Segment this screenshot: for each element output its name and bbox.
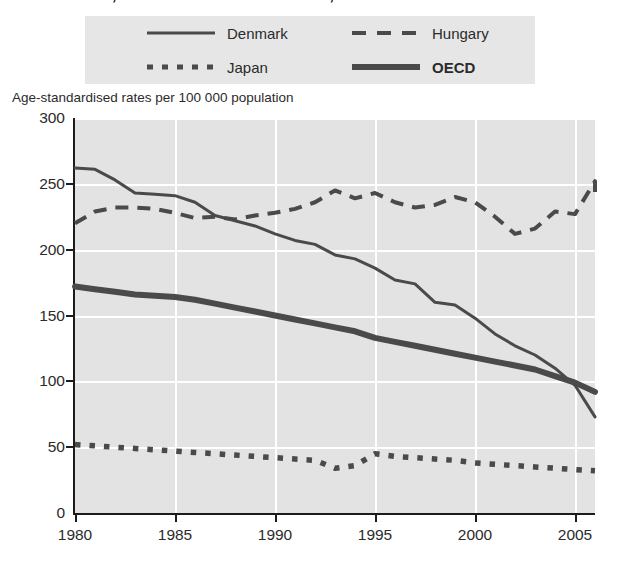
x-tick-label: 1980 bbox=[58, 526, 92, 544]
x-tick-label: 2000 bbox=[458, 526, 492, 544]
legend-label-hungary: Hungary bbox=[432, 25, 489, 42]
legend-item-oecd: OECD bbox=[310, 59, 535, 76]
x-axis-line bbox=[73, 513, 595, 515]
chart-plot-area bbox=[75, 118, 595, 513]
y-tick-label: 250 bbox=[5, 175, 65, 193]
x-tick-label: 1985 bbox=[158, 526, 192, 544]
legend-label-japan: Japan bbox=[227, 59, 268, 76]
series-lines bbox=[75, 118, 595, 513]
y-tick-label: 100 bbox=[5, 372, 65, 390]
x-tick bbox=[275, 513, 277, 522]
x-tick-label: 2005 bbox=[558, 526, 592, 544]
x-tick-label: 1990 bbox=[258, 526, 292, 544]
x-tick-label: 1995 bbox=[358, 526, 392, 544]
y-tick bbox=[66, 315, 75, 317]
line-bold-icon bbox=[352, 60, 420, 74]
x-tick bbox=[75, 513, 77, 522]
series-line-denmark bbox=[75, 168, 595, 417]
x-tick bbox=[575, 513, 577, 522]
series-line-oecd bbox=[75, 287, 595, 392]
y-tick-label: 300 bbox=[5, 109, 65, 127]
y-tick-label: 50 bbox=[5, 438, 65, 456]
line-dotted-icon bbox=[147, 60, 215, 74]
x-tick bbox=[175, 513, 177, 522]
y-tick-label: 150 bbox=[5, 307, 65, 325]
legend-item-hungary: Hungary bbox=[310, 25, 535, 42]
y-axis-caption: Age-standardised rates per 100 000 popul… bbox=[12, 90, 293, 105]
page-title: rates, selected OECD countries, 1980-200… bbox=[70, 0, 422, 5]
series-line-japan bbox=[75, 445, 595, 471]
y-tick bbox=[66, 380, 75, 382]
y-tick-label: 0 bbox=[5, 504, 65, 522]
x-tick bbox=[375, 513, 377, 522]
series-line-hungary bbox=[75, 181, 595, 234]
x-tick bbox=[475, 513, 477, 522]
legend-label-oecd: OECD bbox=[432, 59, 475, 76]
y-tick-label: 200 bbox=[5, 241, 65, 259]
line-dashed-icon bbox=[352, 26, 420, 40]
legend-item-japan: Japan bbox=[85, 59, 310, 76]
legend-item-denmark: Denmark bbox=[85, 25, 310, 42]
chart-page: rates, selected OECD countries, 1980-200… bbox=[0, 0, 620, 572]
chart-title-clipped: rates, selected OECD countries, 1980-200… bbox=[0, 0, 620, 10]
chart-legend: Denmark Hungary Japan OECD bbox=[85, 16, 535, 84]
y-tick bbox=[66, 183, 75, 185]
y-tick bbox=[66, 249, 75, 251]
y-tick bbox=[66, 446, 75, 448]
legend-label-denmark: Denmark bbox=[227, 25, 288, 42]
line-solid-icon bbox=[147, 26, 215, 40]
